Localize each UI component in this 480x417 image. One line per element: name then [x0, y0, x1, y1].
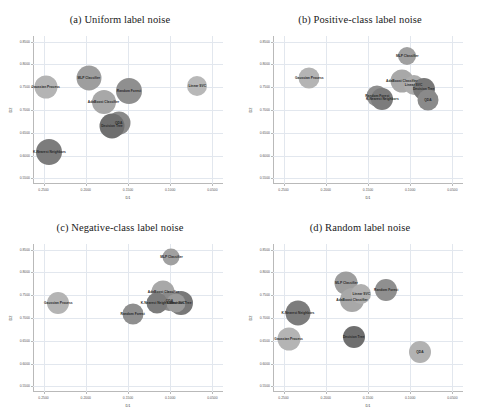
y-tick-mark: [31, 250, 33, 251]
gridline-horizontal: [273, 341, 463, 342]
data-point-bubble[interactable]: [163, 249, 180, 266]
gridline-horizontal: [33, 42, 223, 43]
x-tick-mark: [86, 392, 87, 394]
x-tick-mark: [326, 392, 327, 394]
data-point-bubble[interactable]: [409, 341, 431, 363]
plot-area: 0.25000.20000.15000.10000.05000.85000.80…: [273, 244, 463, 392]
data-point-bubble[interactable]: [351, 284, 371, 304]
y-tick-label: 0.7500: [260, 85, 270, 89]
y-tick-label: 0.8000: [260, 62, 270, 66]
y-tick-label: 0.6500: [20, 339, 30, 343]
y-tick-label: 0.6000: [20, 362, 30, 366]
x-tick-mark: [170, 392, 171, 394]
x-tick-mark: [452, 392, 453, 394]
y-tick-label: 0.8500: [20, 40, 30, 44]
x-tick-label: 0.0500: [207, 188, 217, 192]
y-tick-mark: [271, 87, 273, 88]
y-axis-label: D2: [248, 316, 253, 321]
y-tick-label: 0.6000: [20, 154, 30, 158]
y-tick-label: 0.6500: [260, 131, 270, 135]
gridline-horizontal: [33, 364, 223, 365]
y-tick-mark: [31, 64, 33, 65]
gridline-horizontal: [273, 386, 463, 387]
data-point-bubble[interactable]: [76, 66, 101, 91]
y-tick-mark: [271, 318, 273, 319]
y-tick-label: 0.6500: [260, 339, 270, 343]
y-tick-mark: [271, 64, 273, 65]
y-tick-label: 0.7000: [260, 108, 270, 112]
x-axis-label: D1: [33, 403, 223, 408]
panel-c: (c) Negative-class label noise0.25000.20…: [0, 208, 240, 417]
panel-title: (a) Uniform label noise: [0, 14, 240, 25]
gridline-horizontal: [273, 364, 463, 365]
data-point-bubble[interactable]: [34, 75, 57, 98]
y-tick-mark: [271, 42, 273, 43]
x-axis-label: D1: [33, 195, 223, 200]
gridline-horizontal: [273, 133, 463, 134]
data-point-bubble[interactable]: [47, 292, 69, 314]
data-point-bubble[interactable]: [371, 88, 393, 110]
data-point-bubble[interactable]: [122, 304, 143, 325]
x-tick-label: 0.2500: [38, 396, 48, 400]
x-tick-mark: [128, 392, 129, 394]
y-tick-label: 0.8000: [260, 270, 270, 274]
gridline-horizontal: [273, 64, 463, 65]
y-tick-label: 0.7000: [20, 316, 30, 320]
x-tick-mark: [86, 184, 87, 186]
data-point-bubble[interactable]: [375, 279, 397, 301]
y-tick-mark: [271, 341, 273, 342]
y-tick-label: 0.7000: [260, 316, 270, 320]
data-point-bubble[interactable]: [167, 293, 186, 312]
data-point-bubble[interactable]: [36, 139, 62, 165]
x-tick-label: 0.1000: [165, 396, 175, 400]
x-tick-mark: [44, 184, 45, 186]
data-point-bubble[interactable]: [147, 293, 168, 314]
data-point-bubble[interactable]: [277, 327, 300, 350]
gridline-horizontal: [33, 250, 223, 251]
x-tick-mark: [410, 184, 411, 186]
gridline-horizontal: [273, 250, 463, 251]
x-tick-label: 0.2500: [278, 188, 288, 192]
x-tick-label: 0.1000: [165, 188, 175, 192]
gridline-horizontal: [33, 110, 223, 111]
gridline-horizontal: [33, 133, 223, 134]
panel-d: (d) Random label noise0.25000.20000.1500…: [240, 208, 480, 417]
y-tick-label: 0.7500: [260, 293, 270, 297]
data-point-bubble[interactable]: [343, 326, 365, 348]
gridline-horizontal: [33, 341, 223, 342]
data-point-bubble[interactable]: [299, 67, 320, 88]
y-tick-mark: [271, 386, 273, 387]
data-point-bubble[interactable]: [285, 300, 310, 325]
plot-area: 0.25000.20000.15000.10000.05000.85000.80…: [33, 36, 223, 184]
x-axis-label: D1: [273, 195, 463, 200]
x-tick-mark: [284, 392, 285, 394]
data-point-bubble[interactable]: [99, 114, 124, 139]
y-tick-mark: [31, 110, 33, 111]
y-tick-mark: [31, 42, 33, 43]
x-tick-label: 0.1000: [405, 396, 415, 400]
y-tick-mark: [271, 295, 273, 296]
data-point-bubble[interactable]: [417, 89, 438, 110]
data-point-bubble[interactable]: [398, 47, 416, 65]
y-tick-mark: [31, 156, 33, 157]
data-point-bubble[interactable]: [187, 76, 207, 96]
panel-title: (d) Random label noise: [240, 222, 480, 233]
x-tick-label: 0.0500: [207, 396, 217, 400]
y-tick-label: 0.8000: [20, 62, 30, 66]
data-point-bubble[interactable]: [92, 90, 116, 114]
x-tick-label: 0.1000: [405, 188, 415, 192]
gridline-horizontal: [273, 156, 463, 157]
y-tick-mark: [271, 133, 273, 134]
x-tick-label: 0.1500: [123, 396, 133, 400]
y-tick-label: 0.5500: [260, 384, 270, 388]
y-tick-mark: [31, 341, 33, 342]
x-tick-label: 0.2000: [81, 396, 91, 400]
y-tick-mark: [31, 295, 33, 296]
x-tick-label: 0.1500: [123, 188, 133, 192]
gridline-horizontal: [273, 178, 463, 179]
x-tick-label: 0.0500: [447, 396, 457, 400]
x-tick-mark: [452, 184, 453, 186]
data-point-bubble[interactable]: [116, 78, 142, 104]
y-tick-label: 0.6000: [260, 154, 270, 158]
y-tick-mark: [271, 364, 273, 365]
